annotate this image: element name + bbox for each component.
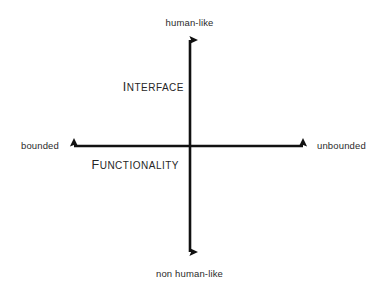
functionality-label-rest: UNCTIONALITY bbox=[100, 160, 179, 171]
vertical-axis-top-label: human-like bbox=[0, 18, 379, 28]
functionality-axis-label: FUNCTIONALITY bbox=[0, 159, 179, 172]
interface-label-rest: NTERFACE bbox=[127, 82, 184, 93]
vertical-axis-bottom-label: non human-like bbox=[0, 269, 379, 279]
horizontal-axis-left-label: bounded bbox=[0, 141, 59, 151]
functionality-label-initial: F bbox=[92, 158, 100, 172]
horizontal-axis-right-label: unbounded bbox=[317, 141, 366, 151]
diagram-canvas: human-like non human-like bounded unboun… bbox=[0, 0, 379, 295]
interface-axis-label: INTERFACE bbox=[0, 81, 184, 94]
